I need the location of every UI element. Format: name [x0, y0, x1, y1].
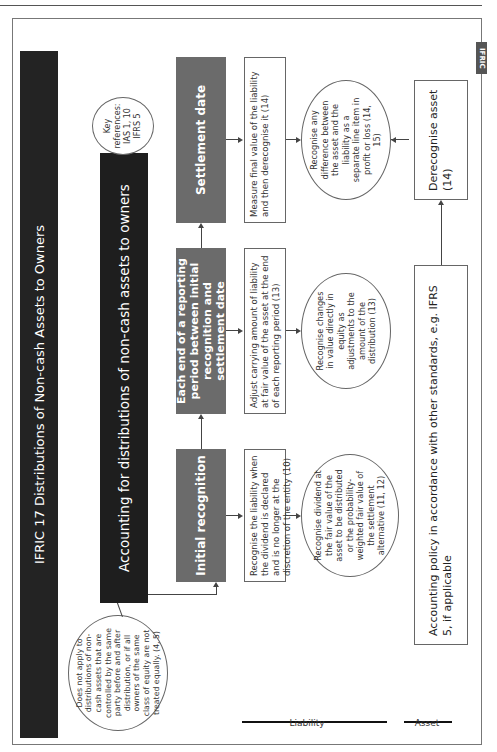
liability-reporting-label: Adjust carrying amount of liability at f…: [249, 256, 281, 408]
liability-settlement-label: Measure final value of the liability and…: [249, 71, 270, 217]
arrow-right-icon: [213, 582, 219, 587]
outcome-reporting-label: Recognise changes in value directly in e…: [315, 290, 378, 372]
phase-reporting-period-label: Each end of a reporting period between i…: [175, 252, 227, 410]
connector-phase-2-3: [201, 228, 202, 248]
liability-settlement-text: Measure final value of the liability and…: [244, 57, 286, 223]
connector-settlement-outcome: [286, 139, 296, 140]
connector-phase-1-2: [201, 419, 202, 449]
arrow-down-icon: [238, 137, 243, 143]
connector-reporting-down: [226, 330, 238, 331]
liability-initial-text: Recognise the liability when the dividen…: [244, 449, 286, 582]
outcome-initial-label: Recognise dividend at the fair value of …: [313, 469, 387, 562]
diagram-canvas: IFRIC 17 Distributions of Non-cash Asset…: [12, 18, 497, 488]
connector-settlement-down: [226, 139, 238, 140]
asset-policy-box: Accounting policy in accordance with oth…: [414, 265, 468, 645]
arrow-right-icon: [198, 414, 204, 419]
diagram-title-bar: IFRIC 17 Distributions of Non-cash Asset…: [20, 51, 58, 738]
main-topic-label: Accounting for distributions of non-cash…: [116, 184, 132, 572]
connector-initial-down: [226, 515, 238, 516]
phase-settlement-date-label: Settlement date: [194, 85, 209, 195]
outcome-settlement-circle: Recognise any difference between the ass…: [301, 80, 391, 200]
connector-initial-outcome: [286, 515, 296, 516]
arrow-right-icon: [438, 200, 444, 205]
legend-asset-label: Asset: [407, 718, 447, 728]
phase-reporting-period: Each end of a reporting period between i…: [176, 248, 226, 414]
phase-settlement-date: Settlement date: [176, 57, 226, 223]
liability-reporting-text: Adjust carrying amount of liability at f…: [244, 248, 286, 414]
arrow-down-icon: [238, 513, 243, 519]
phase-initial-recognition: Initial recognition: [176, 449, 226, 582]
phase-initial-recognition-label: Initial recognition: [194, 455, 209, 576]
arrow-down-icon: [238, 328, 243, 334]
arrow-up-icon: [391, 137, 396, 143]
outcome-reporting-circle: Recognise changes in value directly in e…: [301, 273, 391, 389]
outcome-initial-circle: Recognise dividend at the fair value of …: [301, 454, 399, 577]
page-top-rule: [0, 5, 482, 6]
legend-liability-label: Liability: [287, 718, 327, 728]
key-references-text: Key references: IAS 1, 10 IFRS 5: [103, 102, 143, 150]
scope-exclusion-text: Does not apply to distributions of non-c…: [75, 628, 161, 718]
main-topic-box: Accounting for distributions of non-cash…: [100, 153, 148, 603]
outcome-settlement-label: Recognise any difference between the ass…: [309, 97, 383, 183]
asset-policy-label: Accounting policy in accordance with oth…: [427, 274, 455, 636]
connector-reporting-outcome: [286, 330, 296, 331]
connector-asset: [441, 205, 442, 265]
diagram-title: IFRIC 17 Distributions of Non-cash Asset…: [32, 225, 47, 564]
arrow-right-icon: [198, 223, 204, 228]
derecognise-asset-box: Derecognise asset (14): [414, 80, 468, 200]
key-references-circle: Key references: IAS 1, 10 IFRS 5: [92, 97, 154, 155]
diagram-rotated-layer: IFRIC 17 Distributions of Non-cash Asset…: [12, 18, 482, 745]
legend-liability-text: Liability: [289, 718, 324, 728]
connector-main-down: [148, 594, 216, 595]
derecognise-asset-label: Derecognise asset (14): [427, 89, 455, 191]
scope-exclusion-circle: Does not apply to distributions of non-c…: [68, 615, 168, 731]
legend-asset-text: Asset: [415, 718, 440, 728]
